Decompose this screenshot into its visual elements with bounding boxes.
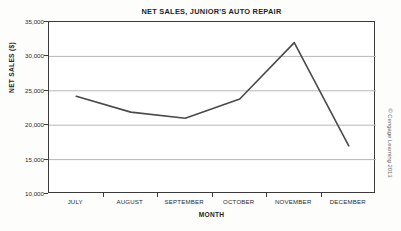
x-axis-tick-label: SEPTEMBER bbox=[165, 198, 204, 205]
x-axis-tick-label: OCTOBER bbox=[223, 198, 254, 205]
net-sales-line bbox=[76, 43, 349, 146]
chart-figure: NET SALES, JUNIOR'S AUTO REPAIR NET SALE… bbox=[0, 0, 401, 231]
y-axis-tick-labels: 35,00030,00025,00020,00015,00010,000 bbox=[8, 21, 44, 193]
copyright-credit: © Cengage Learning 2013 bbox=[387, 83, 393, 203]
x-axis-title: MONTH bbox=[48, 211, 375, 218]
y-axis-tick-label: 25,000 bbox=[10, 86, 44, 93]
y-axis-tick-mark bbox=[44, 21, 48, 22]
plot-area bbox=[48, 21, 375, 193]
y-axis-tick-mark bbox=[44, 159, 48, 160]
x-axis-tick-label: NOVEMBER bbox=[275, 198, 311, 205]
y-axis-tick-label: 10,000 bbox=[10, 190, 44, 197]
x-axis-tick-mark bbox=[157, 193, 158, 197]
y-axis-tick-mark bbox=[44, 193, 48, 194]
x-axis-tick-label: JULY bbox=[68, 198, 83, 205]
y-axis-tick-mark bbox=[44, 124, 48, 125]
chart-plot-svg bbox=[49, 22, 376, 194]
y-axis-tick-mark bbox=[44, 90, 48, 91]
x-axis-tick-label: DECEMBER bbox=[330, 198, 366, 205]
x-axis-tick-mark bbox=[266, 193, 267, 197]
x-axis-tick-label: AUGUST bbox=[116, 198, 143, 205]
x-axis-tick-mark bbox=[321, 193, 322, 197]
y-axis-tick-mark bbox=[44, 55, 48, 56]
x-axis-tick-mark bbox=[212, 193, 213, 197]
y-axis-tick-label: 30,000 bbox=[10, 52, 44, 59]
chart-title: NET SALES, JUNIOR'S AUTO REPAIR bbox=[48, 7, 375, 16]
y-axis-tick-label: 35,000 bbox=[10, 18, 44, 25]
x-axis-tick-mark bbox=[103, 193, 104, 197]
y-axis-tick-label: 15,000 bbox=[10, 155, 44, 162]
y-axis-tick-label: 20,000 bbox=[10, 121, 44, 128]
